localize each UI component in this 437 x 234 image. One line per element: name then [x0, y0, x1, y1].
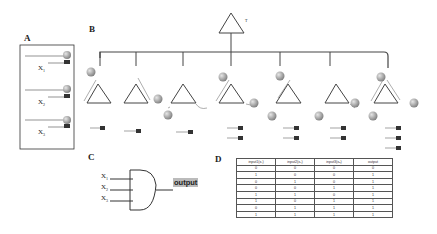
- truth-table: input1(x₁) input2(x₂) input3(x₃) output …: [236, 158, 393, 218]
- cell: 0: [276, 172, 315, 179]
- gate-output-label: output: [173, 178, 198, 187]
- table-row: 1111: [237, 211, 393, 218]
- cell: 0: [276, 185, 315, 192]
- cell: 1: [354, 178, 393, 185]
- cell: 1: [237, 191, 276, 198]
- cell: 0: [237, 165, 276, 172]
- table-header-row: input1(x₁) input2(x₂) input3(x₃) output: [237, 159, 393, 166]
- cell: 0: [237, 205, 276, 212]
- cell: 0: [315, 172, 354, 179]
- cell: 1: [354, 205, 393, 212]
- header-input2: input2(x₂): [276, 159, 315, 166]
- cell: 1: [315, 211, 354, 218]
- table-row: 1001: [237, 172, 393, 179]
- gate-input-1-label: X1: [101, 172, 108, 181]
- logic-gate: [110, 170, 173, 210]
- cell: 0: [276, 198, 315, 205]
- panel-a-input-3-label: X3: [38, 128, 45, 137]
- top-gate-label: T: [245, 18, 247, 23]
- gate-row: [87, 84, 398, 103]
- cell: 0: [315, 178, 354, 185]
- panel-a-input-1-label: X1: [38, 64, 45, 73]
- cell: 1: [276, 178, 315, 185]
- cell: 1: [237, 211, 276, 218]
- cell: 1: [315, 185, 354, 192]
- table-row: 0000: [237, 165, 393, 172]
- panel-a-box: [20, 45, 74, 149]
- cell: 0: [315, 165, 354, 172]
- sphere-markers: [87, 68, 419, 121]
- cell: 0: [276, 165, 315, 172]
- cell: 1: [354, 198, 393, 205]
- cell: 1: [354, 172, 393, 179]
- cell: 1: [237, 198, 276, 205]
- cell: 0: [315, 191, 354, 198]
- header-output: output: [354, 159, 393, 166]
- gate-input-3-label: X3: [101, 194, 108, 203]
- cell: 0: [237, 185, 276, 192]
- gate-input-2-label: X2: [101, 183, 108, 192]
- cell: 1: [276, 191, 315, 198]
- cell: 1: [315, 198, 354, 205]
- cell: 1: [354, 185, 393, 192]
- reporters: [90, 126, 401, 150]
- cell: 1: [237, 172, 276, 179]
- table-row: 0011: [237, 185, 393, 192]
- top-gate-triangle: [219, 13, 244, 52]
- table-row: 0111: [237, 205, 393, 212]
- header-input1: input1(x₁): [237, 159, 276, 166]
- bus-line: [100, 52, 388, 68]
- table-row: 0101: [237, 178, 393, 185]
- cell: 1: [276, 205, 315, 212]
- cell: 1: [354, 191, 393, 198]
- cell: 0: [237, 178, 276, 185]
- panel-a-input-2-label: X2: [38, 98, 45, 107]
- table-row: 1011: [237, 198, 393, 205]
- table-row: 1101: [237, 191, 393, 198]
- cell: 1: [315, 205, 354, 212]
- cell: 1: [276, 211, 315, 218]
- header-input3: input3(x₃): [315, 159, 354, 166]
- cell: 1: [354, 211, 393, 218]
- cell: 0: [354, 165, 393, 172]
